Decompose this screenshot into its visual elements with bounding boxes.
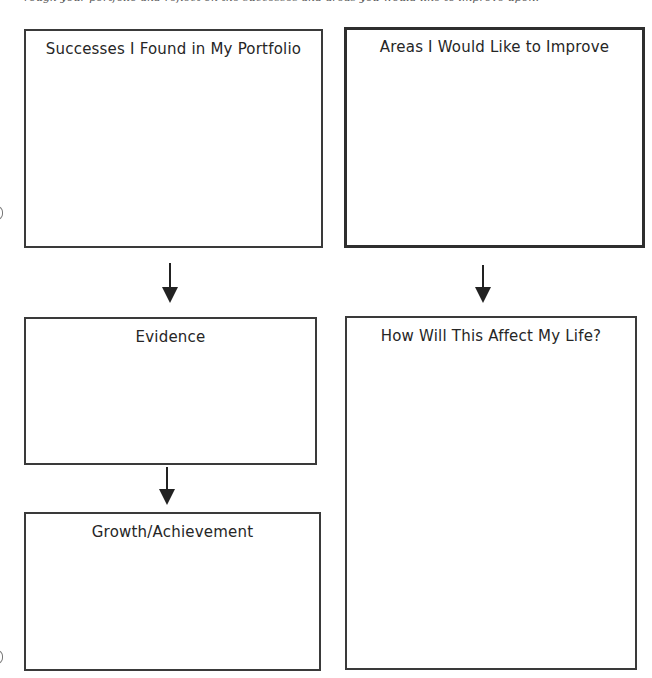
successes-box: Successes I Found in My Portfolio (24, 29, 323, 248)
down-arrow-icon (159, 467, 175, 505)
evidence-box-title: Evidence (26, 328, 315, 346)
life-effect-box: How Will This Affect My Life? (345, 316, 637, 670)
life-effect-writing-area[interactable] (347, 358, 635, 668)
successes-box-title: Successes I Found in My Portfolio (26, 40, 321, 58)
areas-to-improve-writing-area[interactable] (347, 70, 642, 245)
life-effect-box-title: How Will This Affect My Life? (347, 327, 635, 345)
areas-to-improve-box-title: Areas I Would Like to Improve (347, 38, 642, 56)
areas-to-improve-box: Areas I Would Like to Improve (344, 27, 645, 248)
growth-achievement-writing-area[interactable] (26, 554, 319, 669)
evidence-writing-area[interactable] (26, 359, 315, 463)
cut-off-instructions-text: rough your portfolio and reflect on the … (0, 0, 652, 3)
growth-achievement-box: Growth/Achievement (24, 512, 321, 671)
down-arrow-icon (162, 263, 178, 303)
binder-hole-mark-top (0, 206, 3, 220)
binder-hole-mark-bottom (0, 650, 3, 664)
down-arrow-icon (475, 265, 491, 303)
growth-achievement-box-title: Growth/Achievement (26, 523, 319, 541)
successes-writing-area[interactable] (26, 71, 321, 246)
evidence-box: Evidence (24, 317, 317, 465)
